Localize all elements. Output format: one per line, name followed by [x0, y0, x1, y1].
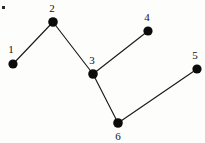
graph-node-label-5: 5	[192, 49, 198, 61]
graph-node-6[interactable]	[113, 118, 123, 128]
graph-node-label-1: 1	[8, 43, 14, 55]
graph-node-label-2: 2	[49, 2, 55, 14]
graph-node-label-4: 4	[144, 11, 150, 23]
edge-layer	[13, 22, 197, 123]
graph-node-5[interactable]	[192, 64, 201, 73]
stray-mark-layer	[2, 6, 5, 9]
graph-node-2[interactable]	[48, 17, 58, 27]
graph-edge-3-6	[93, 74, 118, 123]
graph-edge-1-2	[13, 22, 53, 64]
graph-canvas: 123456	[0, 0, 205, 143]
graph-edge-6-5	[118, 69, 197, 123]
graph-node-1[interactable]	[8, 59, 17, 68]
graph-edge-2-3	[53, 22, 93, 74]
stray-ink-mark	[2, 6, 5, 9]
graph-node-4[interactable]	[143, 26, 152, 35]
graph-figure: 123456	[0, 0, 205, 143]
graph-node-3[interactable]	[88, 69, 98, 79]
graph-node-label-3: 3	[89, 54, 95, 66]
graph-edge-3-4	[93, 31, 148, 74]
label-layer: 123456	[8, 2, 198, 142]
node-layer	[8, 17, 201, 128]
graph-node-label-6: 6	[115, 130, 121, 142]
